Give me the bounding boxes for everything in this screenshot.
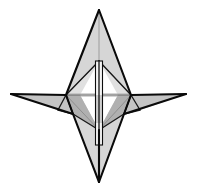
outline-right-spike-top xyxy=(131,94,186,95)
star-diagram-svg xyxy=(0,0,197,189)
figure-root: Four-pointed polyhedral star wireframe xyxy=(0,0,197,189)
outline-left-spike-top xyxy=(11,94,66,95)
